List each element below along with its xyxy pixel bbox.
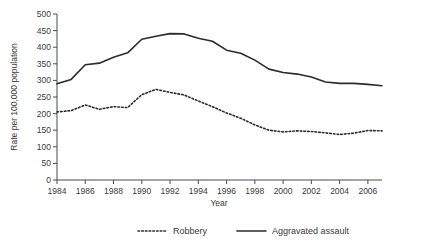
chart-container: 050100150200250300350400450500 198419861… (0, 0, 430, 252)
legend-label-aggravated-assault: Aggravated assault (272, 226, 350, 236)
x-tick-label: 1992 (161, 186, 180, 196)
line-chart: 050100150200250300350400450500 198419861… (0, 0, 430, 252)
x-tick-label: 1986 (76, 186, 95, 196)
y-tick-label: 500 (37, 9, 51, 19)
x-tick-label: 1990 (132, 186, 151, 196)
series-line-robbery (57, 89, 382, 134)
y-tick-label: 200 (37, 109, 51, 119)
y-axis-tick-labels: 050100150200250300350400450500 (37, 9, 51, 185)
y-tick-label: 250 (37, 92, 51, 102)
y-axis-title: Rate per 100,000 population (9, 43, 19, 151)
x-tick-label: 1998 (245, 186, 264, 196)
x-tick-label: 1994 (189, 186, 208, 196)
legend-label-robbery: Robbery (173, 226, 208, 236)
x-tick-label: 2004 (330, 186, 349, 196)
y-tick-label: 400 (37, 42, 51, 52)
y-tick-label: 100 (37, 142, 51, 152)
legend: Robbery Aggravated assault (138, 226, 350, 236)
x-tick-label: 2006 (358, 186, 377, 196)
y-tick-label: 300 (37, 75, 51, 85)
x-axis-title: Year (210, 198, 227, 208)
y-tick-label: 0 (46, 175, 51, 185)
y-axis-tickmarks (53, 14, 57, 180)
y-tick-label: 350 (37, 59, 51, 69)
x-tick-label: 1984 (48, 186, 67, 196)
x-tick-label: 2002 (302, 186, 321, 196)
y-tick-label: 150 (37, 125, 51, 135)
x-axis-tick-labels: 1984198619881990199219941996199820002002… (48, 186, 378, 196)
x-tick-label: 1988 (104, 186, 123, 196)
x-axis-tickmarks (57, 180, 368, 184)
x-tick-label: 1996 (217, 186, 236, 196)
y-tick-label: 50 (42, 158, 52, 168)
series-line-aggravated-assault (57, 34, 382, 86)
y-tick-label: 450 (37, 26, 51, 36)
x-tick-label: 2000 (274, 186, 293, 196)
